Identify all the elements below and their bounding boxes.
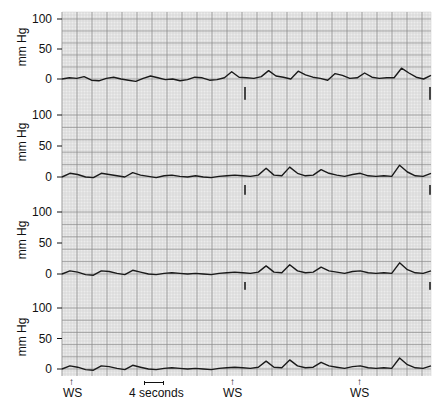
time-scale-bar	[144, 381, 164, 385]
y-tick-0: 0	[18, 363, 52, 375]
chart-grid-2	[62, 100, 431, 195]
chart-panel-4: mm Hg 100 50 0	[0, 290, 442, 375]
y-tick-100: 100	[18, 302, 52, 314]
y-tick-0: 0	[18, 171, 52, 183]
y-tick-0: 0	[18, 73, 52, 85]
y-tick-100: 100	[18, 109, 52, 121]
y-tick-50: 50	[18, 43, 52, 55]
y-tick-50: 50	[18, 140, 52, 152]
y-tick-50: 50	[18, 237, 52, 249]
chart-panel-3: mm Hg 100 50 0	[0, 195, 442, 290]
y-tick-100: 100	[18, 13, 52, 25]
y-tick-50: 50	[18, 333, 52, 345]
chart-panel-1: mm Hg 100 50 0	[0, 0, 442, 100]
time-scale-label: 4 seconds	[129, 386, 184, 400]
ws-label-1: WS	[63, 386, 82, 400]
ws-label-2: WS	[223, 386, 242, 400]
y-tick-0: 0	[18, 268, 52, 280]
y-tick-100: 100	[18, 206, 52, 218]
chart-grid-4	[62, 290, 431, 375]
ws-label-3: WS	[350, 386, 369, 400]
chart-panel-2: mm Hg 100 50 0	[0, 100, 442, 195]
chart-grid-3	[62, 195, 431, 290]
chart-grid-1	[62, 12, 431, 100]
